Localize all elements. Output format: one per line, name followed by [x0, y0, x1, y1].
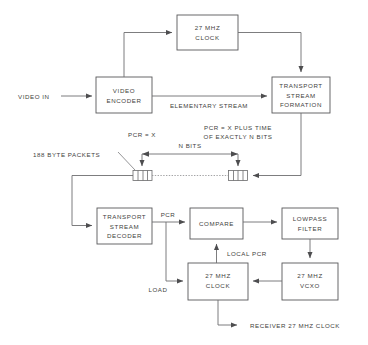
label-pcr-plus-line1: PCR = X PLUS TIME [204, 124, 272, 131]
block-video-encoder-line1: VIDEO [113, 87, 135, 94]
label-elementary-stream: ELEMENTARY STREAM [170, 102, 248, 109]
dimension-arrow-left [142, 151, 149, 156]
wire-tsformation-to-packets [253, 113, 301, 176]
leader-line-packets [118, 152, 135, 170]
block-diagram: VIDEO IN VIDEO ENCODER 27 MHZ CLOCK TRAN… [0, 0, 368, 345]
packet-left [133, 171, 152, 181]
wire-encoder-to-clock [124, 33, 172, 78]
block-compare-label: COMPARE [199, 220, 234, 227]
label-receiver-clock: RECEIVER 27 MHZ CLOCK [250, 322, 340, 329]
wire-clock-to-tsformation [238, 33, 301, 73]
dimension-arrow-right [231, 151, 238, 156]
label-pcr-x: PCR = X [128, 131, 156, 138]
label-pcr: PCR [161, 211, 176, 218]
label-local-pcr: LOCAL PCR [227, 250, 267, 257]
block-ts-formation-line3: FORMATION [280, 101, 322, 108]
block-clock-encoder-line1: 27 MHZ [195, 24, 221, 31]
block-clock-decoder-line1: 27 MHZ [205, 272, 231, 279]
label-load: LOAD [148, 286, 167, 293]
block-lowpass-line2: FILTER [298, 225, 322, 232]
wire-clock-to-receiver-output [218, 300, 237, 325]
block-vcxo-line2: VCXO [300, 282, 320, 289]
block-ts-formation-line2: STREAM [286, 92, 315, 99]
block-video-encoder [96, 77, 152, 113]
label-pcr-plus-line2: OF EXACTLY N BITS [204, 133, 273, 140]
block-clock-decoder-line2: CLOCK [206, 282, 231, 289]
block-ts-formation-line1: TRANSPORT [279, 82, 322, 89]
block-clock-encoder [177, 15, 238, 50]
wire-pcr-load-to-clock [166, 222, 183, 281]
block-lowpass-line1: LOWPASS [293, 215, 327, 222]
block-clock-encoder-line2: CLOCK [195, 34, 220, 41]
block-ts-decoder-line3: DECODER [107, 232, 142, 239]
block-vcxo-line1: 27 MHZ [297, 272, 323, 279]
block-lowpass-filter [282, 208, 338, 239]
label-188-byte-packets: 188 BYTE PACKETS [33, 151, 100, 158]
block-ts-decoder-line2: STREAM [110, 223, 139, 230]
packet-right [229, 171, 248, 181]
label-n-bits: N BITS [178, 142, 201, 149]
block-ts-decoder-line1: TRANSPORT [103, 213, 146, 220]
label-video-in: VIDEO IN [18, 93, 50, 100]
block-video-encoder-line2: ENCODER [106, 97, 141, 104]
